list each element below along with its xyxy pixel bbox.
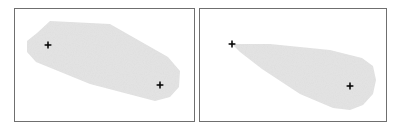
- panel-left: [15, 9, 195, 122]
- panels-group: [15, 9, 387, 122]
- marker-b-center-dot: [159, 84, 162, 87]
- panel-right: [200, 9, 387, 122]
- marker-a-center-dot: [47, 44, 50, 47]
- marker-interior-center-dot: [349, 85, 352, 88]
- figure-canvas: [0, 0, 400, 130]
- marker-apex-center-dot: [231, 43, 234, 46]
- figure-svg-root: [0, 0, 400, 130]
